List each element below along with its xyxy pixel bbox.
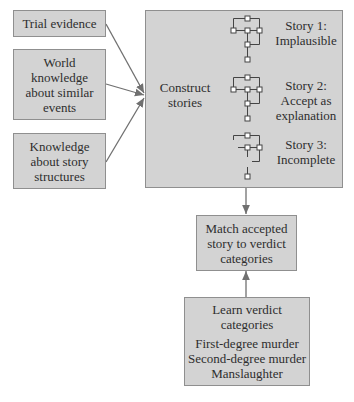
construct-line: Construct — [150, 80, 220, 95]
story-1-status: Implausible — [272, 33, 340, 48]
match-line: Match accepted — [206, 221, 288, 236]
match-line: categories — [220, 251, 273, 266]
story-2-graph-icon — [228, 73, 270, 125]
story-3-graph-icon — [228, 131, 270, 183]
verdict-category: Second-degree murder — [188, 351, 306, 366]
world-knowledge-box: World knowledge about similar events — [13, 49, 106, 120]
story-2-status: explanation — [272, 108, 340, 123]
verdict-category: First-degree murder — [195, 336, 299, 351]
world-knowledge-line: events — [43, 100, 76, 115]
story-2-status: Accept as — [272, 93, 340, 108]
trial-evidence-box: Trial evidence — [13, 10, 106, 37]
story-2-title: Story 2: — [272, 78, 340, 93]
trial-evidence-label: Trial evidence — [22, 16, 96, 31]
construct-line: stories — [150, 95, 220, 110]
story-3-title: Story 3: — [272, 137, 340, 152]
story-2-label: Story 2: Accept as explanation — [272, 78, 340, 123]
story-1-graph-icon — [228, 14, 270, 66]
story-1-label: Story 1: Implausible — [272, 18, 340, 48]
story-structure-knowledge-box: Knowledge about story structures — [13, 133, 106, 189]
construct-stories-label: Construct stories — [150, 80, 220, 110]
story-structure-line: Knowledge — [30, 139, 90, 154]
story-3-label: Story 3: Incomplete — [272, 137, 340, 167]
story-structure-line: structures — [34, 169, 85, 184]
verdict-category: Manslaughter — [211, 366, 282, 381]
story-structure-line: about story — [30, 154, 88, 169]
learn-title-line: Learn verdict — [212, 302, 282, 317]
story-3-status: Incomplete — [272, 152, 340, 167]
world-knowledge-line: knowledge — [31, 70, 88, 85]
match-verdict-box: Match accepted story to verdict categori… — [196, 215, 297, 271]
learn-title-line: categories — [221, 317, 274, 332]
world-knowledge-line: about similar — [25, 85, 93, 100]
match-line: story to verdict — [207, 236, 286, 251]
learn-verdict-categories-box: Learn verdict categories First-degree mu… — [184, 297, 310, 386]
world-knowledge-line: World — [43, 55, 75, 70]
story-1-title: Story 1: — [272, 18, 340, 33]
